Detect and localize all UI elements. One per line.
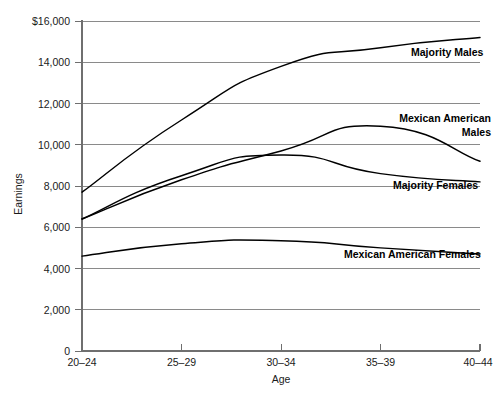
x-tick-label-30-34: 30–34 (266, 356, 295, 368)
series-label-majority-females: Majority Females (393, 179, 478, 191)
y-tick-label-6000: 6,000 (44, 221, 70, 233)
line-chart-earnings-by-age: $16,000 14,000 12,000 10,000 8,000 6,000… (0, 0, 495, 399)
y-axis-title: Earnings (12, 173, 24, 214)
x-tick-label-35-39: 35–39 (366, 356, 395, 368)
series-inline-labels: Majority Males Mexican American Males Ma… (344, 46, 491, 260)
x-axis-tick-marks (82, 344, 480, 351)
y-axis-tick-labels: $16,000 14,000 12,000 10,000 8,000 6,000… (32, 15, 70, 357)
x-tick-label-20-24: 20–24 (67, 356, 96, 368)
y-tick-label-8000: 8,000 (44, 180, 70, 192)
series-line-mexican-american-males (82, 126, 480, 219)
y-tick-label-4000: 4,000 (44, 263, 70, 275)
y-tick-label-2000: 2,000 (44, 304, 70, 316)
x-tick-label-40-44: 40–44 (463, 356, 492, 368)
y-tick-label-14000: 14,000 (38, 56, 70, 68)
series-label-mexican-american-males-line1: Mexican American (399, 112, 491, 124)
x-axis-tick-labels: 20–24 25–29 30–34 35–39 40–44 (67, 356, 492, 368)
y-tick-label-10000: 10,000 (38, 139, 70, 151)
y-tick-label-16000: $16,000 (32, 15, 70, 27)
y-tick-label-12000: 12,000 (38, 98, 70, 110)
chart-canvas: $16,000 14,000 12,000 10,000 8,000 6,000… (0, 0, 495, 399)
series-label-mexican-american-males-line2: Males (462, 126, 491, 138)
series-paths (82, 38, 480, 257)
x-axis-title: Age (272, 373, 291, 385)
series-label-mexican-american-females: Mexican American Females (344, 248, 481, 260)
gridlines-horizontal (82, 21, 480, 310)
x-tick-label-25-29: 25–29 (167, 356, 196, 368)
y-axis-tick-marks (75, 21, 82, 351)
series-label-majority-males: Majority Males (411, 46, 484, 58)
